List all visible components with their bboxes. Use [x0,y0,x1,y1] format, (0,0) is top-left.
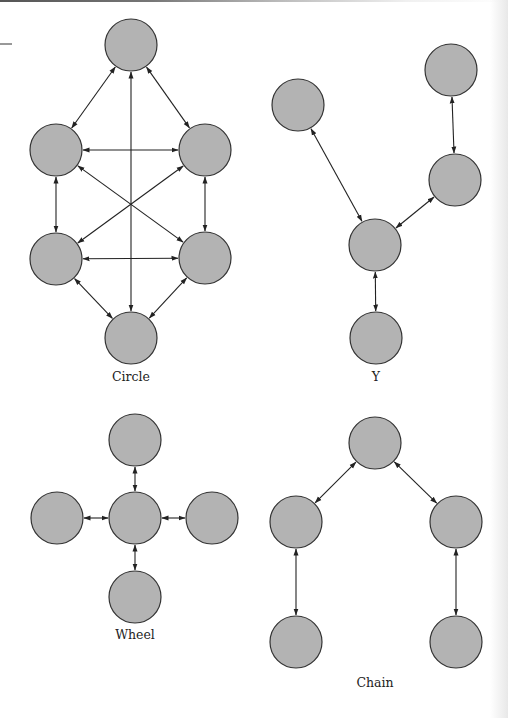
diagram-chain: Chain [270,417,482,690]
network-node [31,492,83,544]
network-node [425,44,477,96]
edges [296,462,456,615]
nodes [272,44,481,364]
diagram-circle: Circle [30,19,231,384]
network-node [109,571,161,623]
network-node [30,233,82,285]
diagram-wheel: Wheel [31,414,238,642]
nodes [270,417,482,668]
network-node [30,124,82,176]
network-node [186,492,238,544]
network-node [179,124,231,176]
bidirectional-edge [394,462,436,503]
network-node [272,79,324,131]
network-node [270,496,322,548]
bidirectional-edge [149,278,186,318]
diagram-label-wheel: Wheel [115,627,155,642]
network-node [349,417,401,469]
network-node [349,219,401,271]
edges [56,67,205,318]
edges [311,97,454,311]
network-node [109,492,161,544]
diagram-label-y: Y [371,369,381,384]
bidirectional-edge [311,129,362,222]
bidirectional-edge [72,67,116,128]
diagram-label-circle: Circle [112,369,150,384]
network-node [179,232,231,284]
network-node [270,616,322,668]
bidirectional-edge [75,279,113,319]
bidirectional-edge [315,462,356,503]
bidirectional-edge [147,67,190,128]
network-node [430,616,482,668]
nodes [31,414,238,623]
network-node [109,414,161,466]
network-node [429,154,481,206]
network-node [430,496,482,548]
bidirectional-edge [396,197,434,228]
diagram-y: Y [272,44,481,384]
communication-networks-figure: Circle Y Wheel Chain [0,0,508,718]
network-node [105,19,157,71]
bidirectional-edge [452,97,454,153]
network-node [350,312,402,364]
diagram-label-chain: Chain [356,675,393,690]
network-node [105,312,157,364]
